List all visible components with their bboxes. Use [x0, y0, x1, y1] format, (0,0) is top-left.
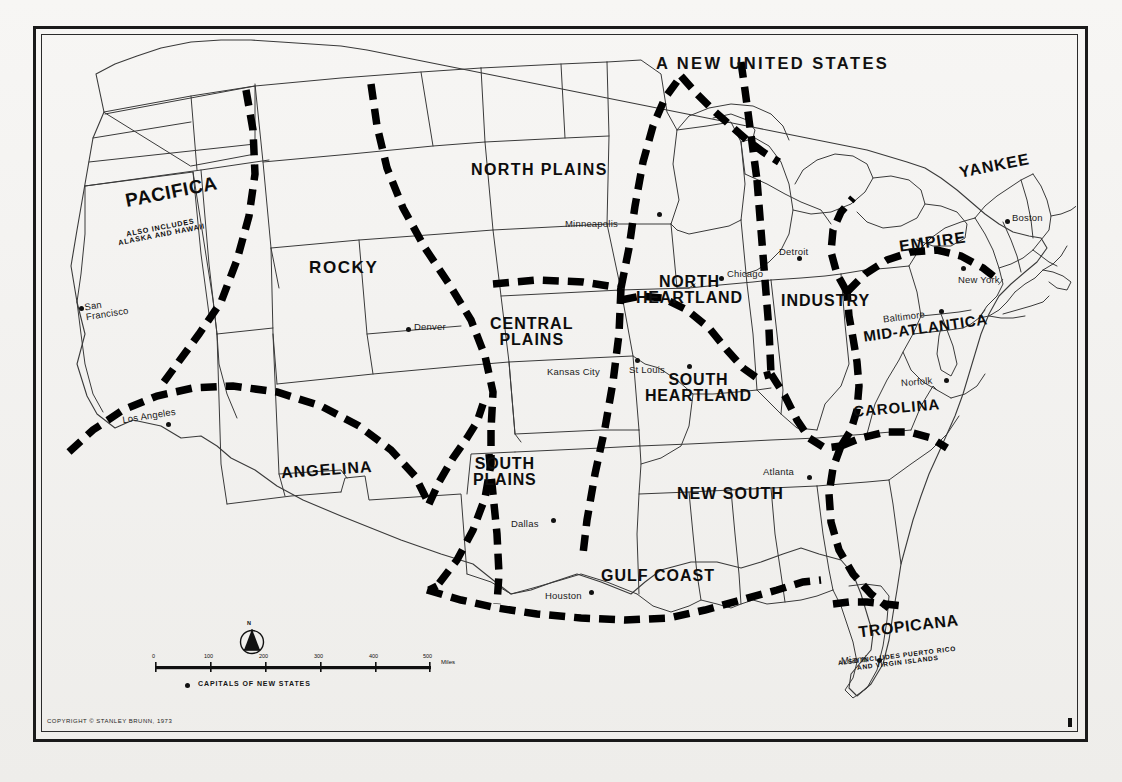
city-label-chicago: Chicago: [727, 268, 763, 279]
capital-dot-kansas-city: [635, 358, 640, 363]
region-name: CENTRALPLAINS: [490, 315, 573, 348]
compass-north-letter: N: [247, 620, 251, 626]
scale-bar: 0 100 200 300 400 500 Miles: [151, 660, 451, 676]
capital-dot-dallas: [551, 518, 556, 523]
scale-tick-0: 0: [152, 653, 155, 659]
region-label-tropicana: TROPICANA ALSO INCLUDES PUERTO RICO AND …: [826, 596, 967, 706]
corner-mark: [1068, 718, 1072, 727]
city-label-denver: Denver: [414, 321, 446, 332]
scale-bar-graphic: [151, 660, 451, 676]
region-label-gulf-coast: GULF COAST: [601, 568, 715, 584]
region-label-rocky: ROCKY: [309, 259, 378, 276]
region-name: PACIFICA: [124, 173, 219, 211]
capital-dot-baltimore: [939, 309, 944, 314]
map-title: A NEW UNITED STATES: [656, 54, 889, 73]
capital-dot-boston: [1005, 219, 1010, 224]
region-label-central-plains: CENTRALPLAINS: [490, 316, 573, 349]
scale-tick-200: 200: [259, 653, 268, 659]
capital-dot-san-francisco: [79, 306, 84, 311]
compass-rose: N: [237, 622, 267, 656]
map-canvas[interactable]: PACIFICA ALSO INCLUDES ALASKA AND HAWAII…: [41, 34, 1076, 730]
capital-dot-st-louis: [687, 364, 692, 369]
capital-dot-new-york: [961, 266, 966, 271]
city-label-dallas: Dallas: [511, 518, 539, 529]
scale-tick-100: 100: [204, 653, 213, 659]
capital-dot-denver: [406, 327, 411, 332]
region-name: NORTH PLAINS: [471, 161, 608, 178]
region-label-north-plains: NORTH PLAINS: [471, 162, 608, 178]
capital-dot-minneapolis: [657, 212, 662, 217]
region-label-industry: INDUSTRY: [781, 293, 870, 309]
city-label-boston: Boston: [1012, 212, 1043, 223]
copyright-notice: COPYRIGHT © STANLEY BRUNN, 1973: [47, 718, 172, 724]
capital-dot-los-angeles: [166, 422, 171, 427]
region-label-south-heartland: SOUTHHEARTLAND: [645, 372, 752, 405]
region-name: SOUTHPLAINS: [473, 455, 536, 488]
region-name: TROPICANA: [858, 612, 960, 641]
city-label-kansas-city: Kansas City: [547, 366, 600, 377]
city-label-st-louis: St Louis: [629, 364, 665, 375]
scale-tick-300: 300: [314, 653, 323, 659]
city-label-houston: Houston: [545, 590, 582, 601]
region-name: GULF COAST: [601, 567, 715, 584]
capital-dot-houston: [589, 590, 594, 595]
capital-dot-chicago: [719, 276, 724, 281]
city-label-minneapolis: Minneapolis: [565, 218, 618, 229]
scale-tick-500: 500: [423, 653, 432, 659]
region-name: ROCKY: [309, 258, 378, 277]
map-page: PACIFICA ALSO INCLUDES ALASKA AND HAWAII…: [0, 0, 1122, 782]
region-label-south-plains: SOUTHPLAINS: [473, 456, 536, 489]
legend-capitals-label: CAPITALS OF NEW STATES: [198, 680, 311, 687]
region-name: SOUTHHEARTLAND: [645, 371, 752, 404]
capital-dot-norfolk: [944, 378, 949, 383]
city-label-miami: Miami: [841, 653, 868, 666]
capital-dot-atlanta: [807, 475, 812, 480]
legend-capital-dot: [185, 683, 190, 688]
scale-tick-400: 400: [369, 653, 378, 659]
region-sublabel: ALSO INCLUDES ALASKA AND HAWAII: [97, 212, 226, 251]
city-label-new-york: New York: [958, 274, 1000, 285]
city-label-detroit: Detroit: [779, 246, 808, 257]
region-label-new-south: NEW SOUTH: [677, 486, 784, 502]
capital-dot-miami: [877, 658, 882, 663]
scale-unit-label: Miles: [441, 659, 455, 665]
compass-icon: [237, 622, 267, 656]
city-label-atlanta: Atlanta: [763, 466, 794, 477]
region-name: NEW SOUTH: [677, 485, 784, 502]
region-name: INDUSTRY: [781, 292, 870, 309]
